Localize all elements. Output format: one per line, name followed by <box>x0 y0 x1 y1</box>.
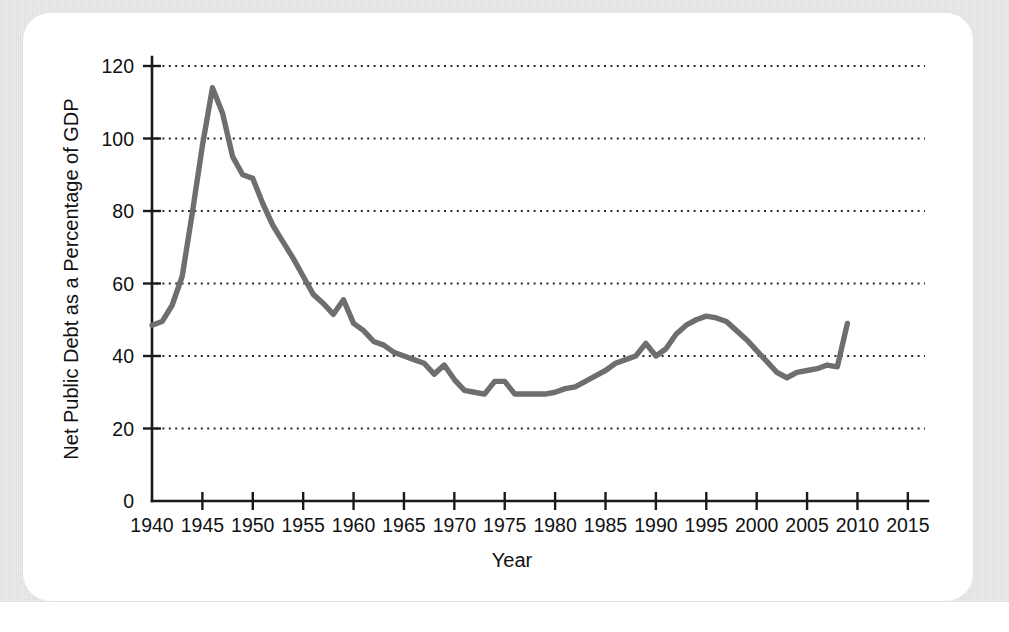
x-tick-label-1940: 1940 <box>130 514 174 536</box>
x-tick-label-2005: 2005 <box>785 514 829 536</box>
x-tick-group: 1940194519501955196019651970197519801985… <box>130 492 929 536</box>
x-tick-label-1970: 1970 <box>433 514 477 536</box>
y-tick-label-120: 120 <box>101 55 134 77</box>
chart-svg: 020406080100120 194019451950195519601965… <box>0 0 1009 632</box>
y-tick-label-40: 40 <box>112 345 134 367</box>
y-tick-label-60: 60 <box>112 273 134 295</box>
x-tick-label-1960: 1960 <box>332 514 376 536</box>
line-chart: 020406080100120 194019451950195519601965… <box>0 0 1009 632</box>
x-tick-label-1950: 1950 <box>231 514 275 536</box>
y-tick-label-100: 100 <box>101 128 134 150</box>
y-axis-title: Net Public Debt as a Percentage of GDP <box>60 98 82 459</box>
y-tick-label-80: 80 <box>112 200 134 222</box>
y-tick-label-20: 20 <box>112 418 134 440</box>
x-tick-label-1995: 1995 <box>685 514 729 536</box>
x-axis-title: Year <box>492 549 533 571</box>
x-tick-label-1990: 1990 <box>634 514 678 536</box>
x-tick-label-1985: 1985 <box>584 514 628 536</box>
x-tick-label-1975: 1975 <box>483 514 527 536</box>
x-tick-label-1945: 1945 <box>181 514 225 536</box>
x-tick-label-1955: 1955 <box>281 514 325 536</box>
x-tick-label-1980: 1980 <box>533 514 577 536</box>
data-series-line <box>152 88 847 394</box>
gridlines-group <box>156 66 925 429</box>
x-tick-label-2000: 2000 <box>735 514 779 536</box>
x-tick-label-2010: 2010 <box>836 514 880 536</box>
y-tick-label-0: 0 <box>123 490 134 512</box>
x-tick-label-1965: 1965 <box>382 514 426 536</box>
x-tick-label-2015: 2015 <box>886 514 930 536</box>
